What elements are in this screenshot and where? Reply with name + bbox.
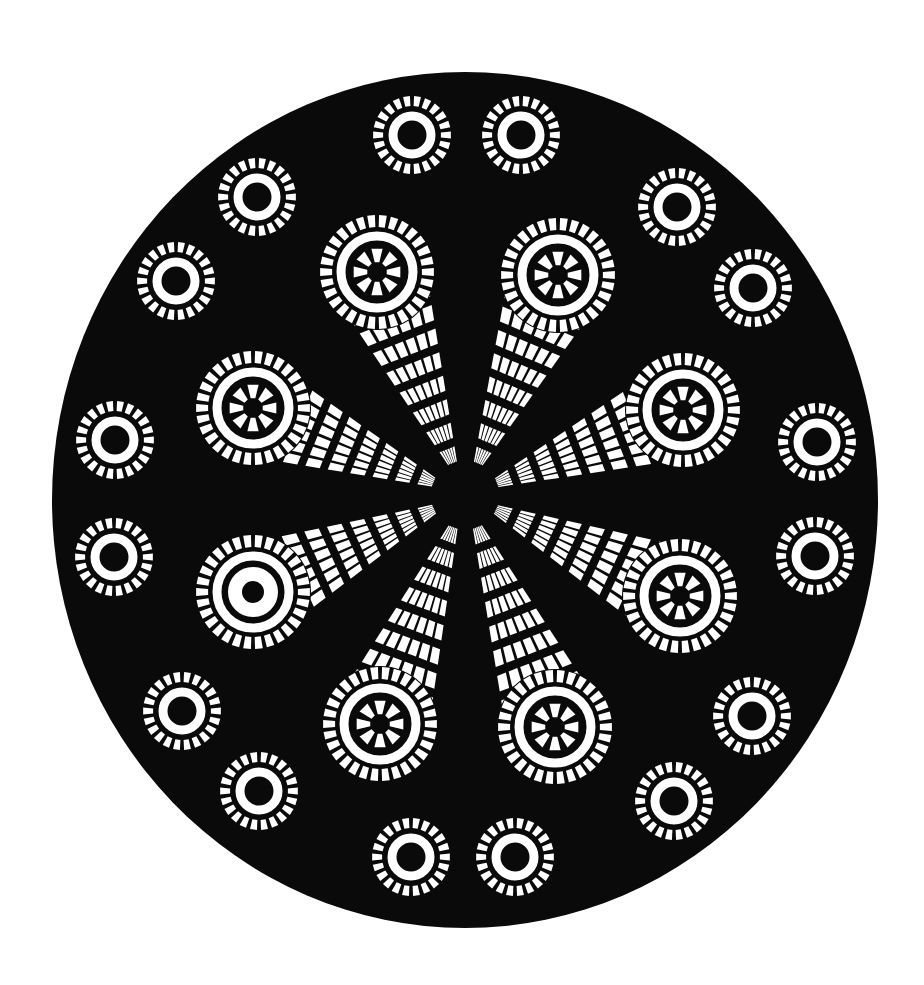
black-disc: [52, 72, 878, 928]
wheel-top-left: [319, 214, 435, 330]
wheel-right-upper: [625, 352, 741, 468]
wheel-bottom-left: [322, 666, 438, 782]
mandala-artwork: [0, 0, 924, 985]
wheel-top-right: [500, 217, 616, 333]
wheel-right-lower: [622, 538, 738, 654]
wheel-bottom-right: [497, 669, 613, 785]
wheel-left-upper: [195, 350, 311, 466]
wheel-left-lower: [195, 534, 311, 650]
